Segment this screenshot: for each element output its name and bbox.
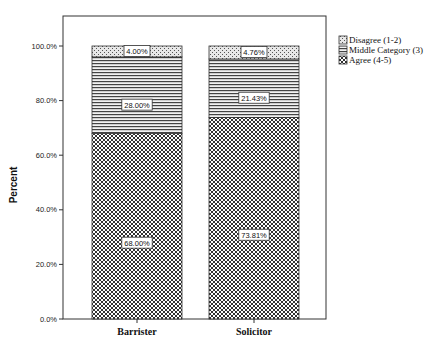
- legend: Disagree (1-2)Middle Category (3)Agree (…: [339, 35, 423, 65]
- legend-swatch: [339, 56, 347, 64]
- category-label: Solicitor: [236, 326, 273, 337]
- stacked-bar-chart: 0.0%20.0%40.0%60.0%80.0%100.0% Percent 6…: [0, 0, 438, 353]
- legend-swatch: [339, 36, 347, 44]
- value-label: 4.00%: [126, 47, 148, 56]
- value-label: 4.76%: [243, 48, 265, 57]
- legend-entry: Disagree (1-2): [349, 35, 401, 45]
- value-label: 73.81%: [241, 231, 267, 240]
- value-label: 21.43%: [241, 94, 267, 103]
- y-tick-label: 100.0%: [32, 42, 58, 51]
- bar-segment: [209, 59, 299, 118]
- bar-solicitor: 73.81%21.43%4.76%: [209, 46, 299, 319]
- bar-segment: [92, 57, 182, 133]
- category-label: Barrister: [117, 326, 157, 337]
- legend-swatch: [339, 46, 347, 54]
- value-label: 68.00%: [124, 239, 150, 248]
- legend-entry: Middle Category (3): [349, 45, 423, 55]
- x-axis: BarristerSolicitor: [117, 319, 272, 337]
- legend-entry: Agree (4-5): [349, 55, 391, 65]
- bar-segment: [209, 117, 299, 319]
- y-axis-label: Percent: [8, 166, 19, 203]
- y-tick-label: 80.0%: [36, 96, 58, 105]
- y-tick-label: 40.0%: [36, 205, 58, 214]
- y-axis: 0.0%20.0%40.0%60.0%80.0%100.0%: [32, 42, 63, 324]
- bar-segment: [92, 133, 182, 319]
- y-tick-label: 60.0%: [36, 151, 58, 160]
- y-tick-label: 0.0%: [40, 315, 57, 324]
- bar-barrister: 68.00%28.00%4.00%: [92, 45, 182, 319]
- y-tick-label: 20.0%: [36, 260, 58, 269]
- value-label: 28.00%: [124, 101, 150, 110]
